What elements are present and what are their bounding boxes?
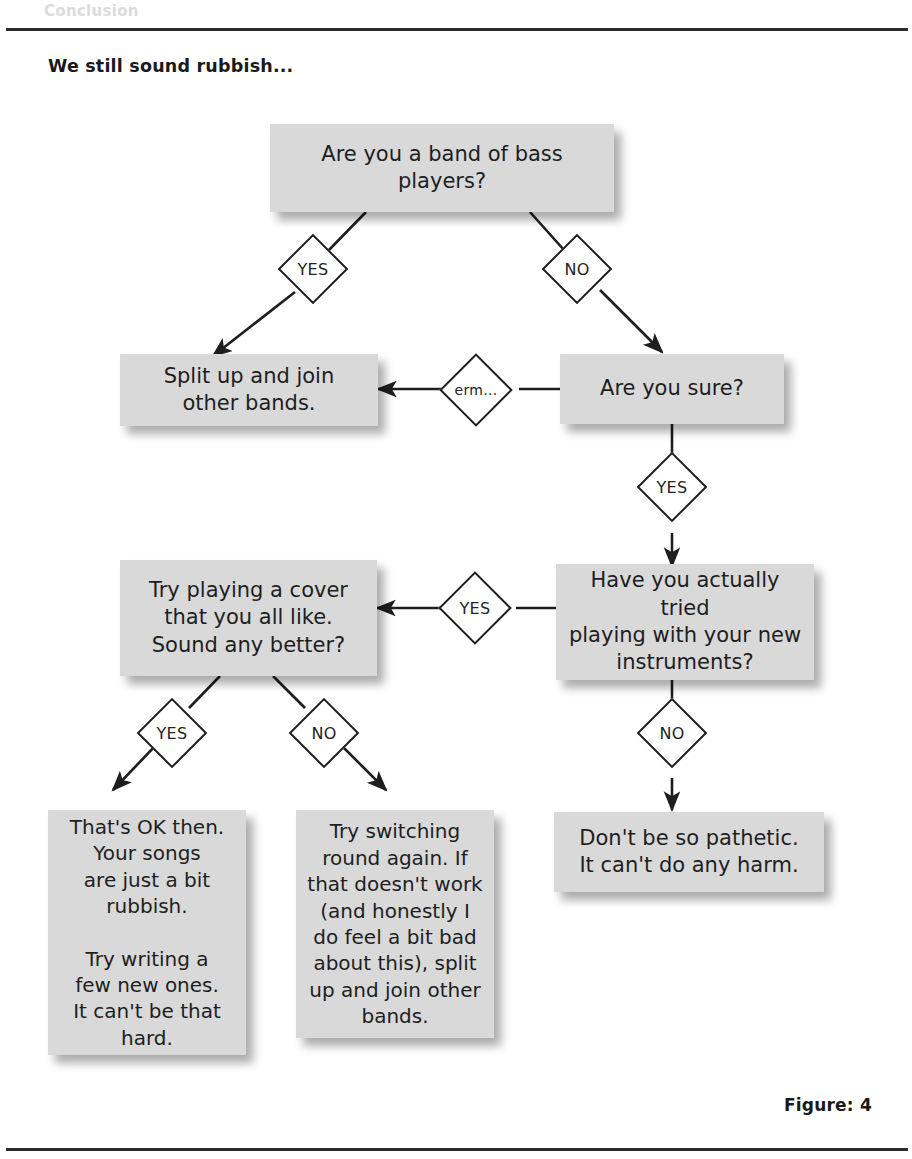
- decision-no-tried-new-instruments[interactable]: NO: [637, 698, 708, 769]
- decision-label: NO: [311, 724, 336, 743]
- flowchart-canvas: Are you a band of bass players? Split up…: [0, 0, 912, 1159]
- figure-page: Conclusion We still sound rubbish...: [0, 0, 912, 1159]
- node-have-you-actually-tried-playing[interactable]: Have you actually tried playing with you…: [556, 564, 814, 680]
- node-dont-be-so-pathetic[interactable]: Don't be so pathetic. It can't do any ha…: [554, 812, 824, 892]
- decision-label: NO: [564, 260, 589, 279]
- figure-caption: Figure: 4: [784, 1095, 872, 1115]
- decision-yes-tried-new-instruments[interactable]: YES: [438, 571, 512, 645]
- decision-yes-sound-any-better[interactable]: YES: [137, 698, 208, 769]
- node-try-switching-round-again[interactable]: Try switching round again. If that doesn…: [296, 810, 494, 1038]
- decision-erm-are-you-sure[interactable]: erm...: [439, 353, 513, 427]
- decision-label: YES: [157, 724, 188, 743]
- node-are-you-a-band-of-bass-players[interactable]: Are you a band of bass players?: [270, 124, 614, 212]
- decision-label: YES: [460, 599, 491, 618]
- decision-label: erm...: [455, 382, 498, 398]
- decision-yes-are-you-sure[interactable]: YES: [637, 452, 708, 523]
- decision-no-sound-any-better[interactable]: NO: [289, 698, 360, 769]
- decision-yes-band-of-bass-players[interactable]: YES: [278, 234, 349, 305]
- node-try-playing-a-cover[interactable]: Try playing a cover that you all like. S…: [120, 560, 377, 676]
- node-thats-ok-then[interactable]: That's OK then. Your songs are just a bi…: [48, 810, 246, 1055]
- node-split-up-and-join-other-bands[interactable]: Split up and join other bands.: [120, 354, 378, 426]
- decision-no-band-of-bass-players[interactable]: NO: [542, 234, 613, 305]
- decision-label: YES: [298, 260, 329, 279]
- node-are-you-sure[interactable]: Are you sure?: [560, 354, 784, 424]
- decision-label: YES: [657, 478, 688, 497]
- decision-label: NO: [659, 724, 684, 743]
